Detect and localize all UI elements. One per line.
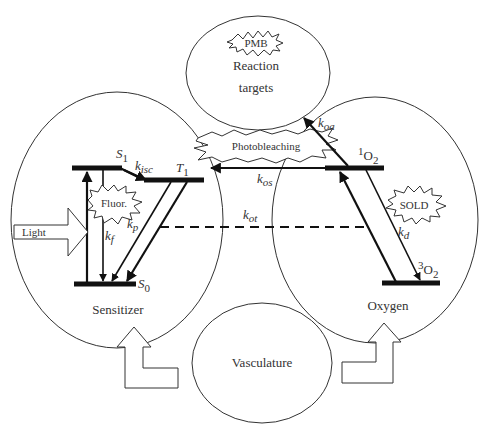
pmb-label: PMB bbox=[244, 37, 267, 49]
vasculature-to-oxygen-arrow-icon bbox=[342, 323, 401, 383]
vasculature-to-sensitizer-arrow-icon bbox=[117, 327, 178, 388]
singlet-o2-label: 1O2 bbox=[358, 145, 378, 166]
kd-label: kd bbox=[398, 224, 410, 241]
fluor-label: Fluor. bbox=[101, 197, 127, 209]
koa-label: koa bbox=[318, 115, 335, 132]
pdt-kinetics-diagram: PMB Reaction targets Photobleaching Fluo… bbox=[0, 0, 484, 432]
vasculature-label: Vasculature bbox=[232, 355, 293, 370]
s0-label: S0 bbox=[138, 276, 151, 294]
kd-arrow bbox=[366, 170, 420, 280]
oxygen-label: Oxygen bbox=[367, 298, 409, 313]
kisc-label: kisc bbox=[135, 158, 153, 175]
kf-label: kf bbox=[105, 228, 116, 245]
sensitizer-label: Sensitizer bbox=[92, 302, 144, 317]
photobleaching-label: Photobleaching bbox=[232, 140, 301, 152]
kp-label: kp bbox=[127, 216, 139, 233]
triplet-o2-label: 3O2 bbox=[418, 259, 438, 280]
s1-label: S1 bbox=[116, 146, 128, 164]
kos-label: kos bbox=[257, 171, 273, 188]
sold-label: SOLD bbox=[400, 199, 429, 211]
kot-label: kot bbox=[243, 207, 258, 224]
light-label: Light bbox=[22, 226, 46, 238]
t1-label: T1 bbox=[176, 160, 189, 178]
reaction-targets-label-1: Reaction bbox=[233, 58, 280, 73]
reaction-targets-label-2: targets bbox=[239, 80, 273, 95]
